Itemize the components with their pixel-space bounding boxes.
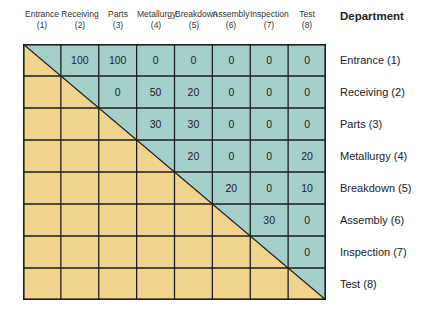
- matrix-cell: 30: [137, 108, 175, 140]
- row-label-entrance: Entrance (1): [340, 44, 401, 76]
- matrix-cell: 50: [137, 76, 175, 108]
- matrix-cell: 20: [212, 172, 250, 204]
- matrix-cell: 0: [212, 108, 250, 140]
- matrix-cell: 100: [99, 44, 137, 76]
- department-title: Department: [340, 10, 404, 22]
- matrix-cell: 30: [175, 108, 213, 140]
- matrix-cell: 0: [288, 76, 326, 108]
- col-header-assembly: Assembly(6): [212, 9, 250, 31]
- matrix-cell: 0: [288, 44, 326, 76]
- matrix-cell: 30: [250, 204, 288, 236]
- row-label-test: Test (8): [340, 268, 377, 300]
- col-header-receiving: Receiving(2): [61, 9, 99, 31]
- matrix-cell: 0: [212, 44, 250, 76]
- matrix-cell: 0: [288, 108, 326, 140]
- row-label-assembly: Assembly (6): [340, 204, 404, 236]
- col-header-parts: Parts(3): [99, 9, 137, 31]
- matrix-cell: 0: [250, 108, 288, 140]
- matrix-cell: 0: [250, 172, 288, 204]
- matrix-cell: 0: [288, 204, 326, 236]
- matrix-cell: 100: [61, 44, 99, 76]
- matrix-cell: 0: [250, 44, 288, 76]
- matrix-cell: 0: [250, 140, 288, 172]
- matrix-cell: 20: [175, 76, 213, 108]
- matrix-cell: 0: [175, 44, 213, 76]
- row-label-receiving: Receiving (2): [340, 76, 405, 108]
- col-header-breakdown: Breakdown(5): [175, 9, 213, 31]
- matrix-cell: 0: [212, 140, 250, 172]
- col-header-test: Test(8): [288, 9, 326, 31]
- col-header-entrance: Entrance(1): [23, 9, 61, 31]
- row-label-parts: Parts (3): [340, 108, 382, 140]
- matrix-cell: 0: [212, 76, 250, 108]
- flow-matrix: 1001000000005020000303000020002020010300…: [23, 44, 326, 300]
- matrix-cell: 0: [137, 44, 175, 76]
- matrix-cell: 0: [250, 76, 288, 108]
- matrix-cell: 20: [175, 140, 213, 172]
- col-header-metallurgy: Metallurgy(4): [137, 9, 175, 31]
- matrix-cell: 0: [288, 236, 326, 268]
- matrix-cell: 10: [288, 172, 326, 204]
- matrix-cell: 20: [288, 140, 326, 172]
- row-label-metallurgy: Metallurgy (4): [340, 140, 407, 172]
- row-label-breakdown: Breakdown (5): [340, 172, 412, 204]
- row-label-inspection: Inspection (7): [340, 236, 407, 268]
- col-header-inspection: Inspection(7): [250, 9, 288, 31]
- matrix-cell: 0: [99, 76, 137, 108]
